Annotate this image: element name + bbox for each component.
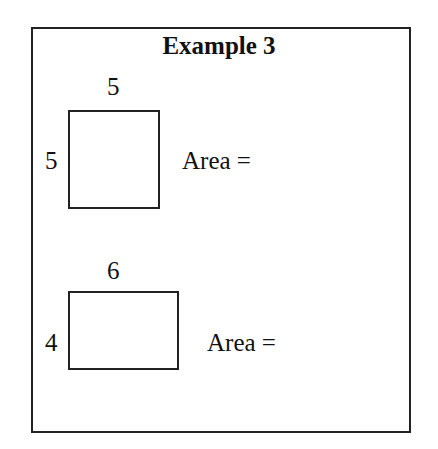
rectangle-area-label: Area =: [207, 330, 276, 355]
rectangle-side-label: 4: [45, 330, 58, 355]
rectangle-top-label: 6: [107, 258, 120, 283]
example-title: Example 3: [0, 32, 438, 60]
rectangle-shape: [68, 291, 179, 370]
square-side-label: 5: [45, 148, 58, 173]
square-top-label: 5: [107, 74, 120, 99]
example-frame: [31, 27, 411, 433]
square-area-label: Area =: [182, 148, 251, 173]
square-shape: [68, 110, 160, 209]
